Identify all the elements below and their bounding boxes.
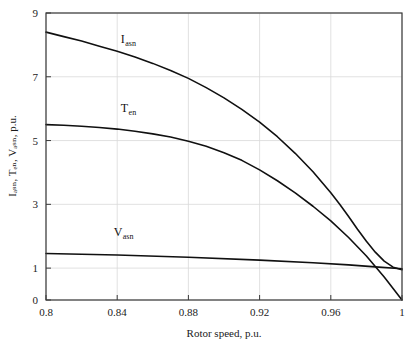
rotor-speed-chart: 0.80.840.880.920.961013579 IasnTenVasn R…: [0, 0, 420, 344]
y-axis-title: Iₐₛₙ, Tₑₙ, Vₐₛₙ, p.u.: [6, 115, 18, 197]
svg-text:Rotor speed, p.u.: Rotor speed, p.u.: [187, 327, 262, 339]
x-tick-label: 0.84: [108, 306, 128, 318]
y-tick-label: 3: [33, 198, 39, 210]
curve-label-subscript: en: [129, 108, 137, 117]
x-axis-title: Rotor speed, p.u.: [187, 327, 262, 339]
svg-text:Iₐₛₙ, Tₑₙ, Vₐₛₙ, p.u.: Iₐₛₙ, Tₑₙ, Vₐₛₙ, p.u.: [6, 115, 18, 197]
x-tick-label: 1: [399, 306, 405, 318]
y-tick-label: 5: [33, 135, 39, 147]
y-tick-label: 9: [33, 7, 39, 19]
y-tick-label: 1: [33, 262, 39, 274]
curve-label-subscript: asn: [125, 39, 136, 48]
plot-background: [0, 0, 420, 344]
y-tick-label: 7: [33, 71, 39, 83]
x-tick-label: 0.92: [250, 306, 269, 318]
x-tick-label: 0.8: [39, 306, 53, 318]
curve-label-subscript: asn: [123, 232, 134, 241]
chart-figure: 0.80.840.880.920.961013579 IasnTenVasn R…: [0, 0, 420, 344]
y-tick-label: 0: [33, 294, 39, 306]
x-tick-label: 0.96: [321, 306, 341, 318]
x-tick-label: 0.88: [179, 306, 199, 318]
